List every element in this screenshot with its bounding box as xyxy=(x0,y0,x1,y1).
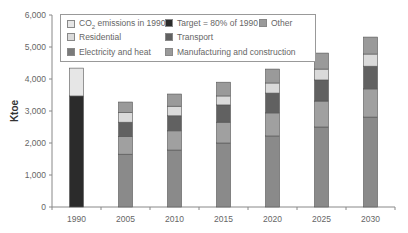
bar-segment xyxy=(119,137,133,155)
bar-segment xyxy=(266,113,280,136)
bar-segment xyxy=(266,136,280,207)
bar-segment xyxy=(168,106,182,116)
legend-label-electricity: Electricity and heat xyxy=(79,47,151,57)
bars xyxy=(70,37,378,207)
y-tick-label: 5,000 xyxy=(25,42,47,52)
bar-segment xyxy=(168,94,182,106)
legend-swatch-co2-1990 xyxy=(67,20,75,28)
y-axis-label: Ktoe xyxy=(9,99,20,122)
bar-segment xyxy=(217,82,231,96)
bar-segment xyxy=(168,150,182,207)
bar-segment xyxy=(217,105,231,122)
bar-segment xyxy=(119,154,133,207)
bar-segment xyxy=(315,53,329,69)
bar-segment xyxy=(217,143,231,207)
legend-label-target: Target = 80% of 1990 xyxy=(177,18,258,28)
legend-item-residential: Residential xyxy=(67,32,121,42)
legend-label-other: Other xyxy=(271,18,292,28)
x-tick-label: 2010 xyxy=(165,214,184,224)
legend-swatch-electricity xyxy=(67,48,75,56)
bar-segment xyxy=(364,117,378,207)
bar-segment xyxy=(364,54,378,66)
bar-segment xyxy=(315,69,329,80)
bar-2025 xyxy=(315,53,329,207)
legend-label-residential: Residential xyxy=(79,32,121,42)
bar-segment xyxy=(315,80,329,101)
legend: CO2 emissions in 1990 Target = 80% of 19… xyxy=(60,14,316,62)
y-tick-label: 6,000 xyxy=(25,10,47,20)
bar-segment xyxy=(364,37,378,54)
x-tick-label: 1990 xyxy=(67,214,86,224)
legend-item-electricity: Electricity and heat xyxy=(67,47,151,57)
legend-swatch-manufacturing xyxy=(165,48,173,56)
legend-item-target: Target = 80% of 1990 xyxy=(165,18,258,28)
x-tick-label: 2020 xyxy=(263,214,282,224)
y-tick-label: 2,000 xyxy=(25,138,47,148)
y-tick-label: 4,000 xyxy=(25,74,47,84)
bar-segment xyxy=(364,89,378,117)
bar-segment xyxy=(315,127,329,207)
legend-label-transport: Transport xyxy=(177,32,213,42)
bar-segment xyxy=(70,96,84,207)
legend-swatch-target xyxy=(165,19,173,27)
legend-label-co2-1990: CO2 emissions in 1990 xyxy=(79,18,166,30)
bar-2010 xyxy=(168,94,182,207)
x-tick-label: 2025 xyxy=(312,214,331,224)
legend-item-manufacturing: Manufacturing and construction xyxy=(165,47,296,57)
bar-2015 xyxy=(217,82,231,207)
bar-2030 xyxy=(364,37,378,207)
bar-segment xyxy=(70,68,84,96)
bar-segment xyxy=(168,116,182,131)
x-tick-label: 2015 xyxy=(214,214,233,224)
bar-segment xyxy=(266,69,280,83)
bar-segment xyxy=(266,93,280,113)
legend-label-manufacturing: Manufacturing and construction xyxy=(177,47,296,57)
legend-swatch-residential xyxy=(67,33,75,41)
bar-segment xyxy=(119,113,133,123)
legend-swatch-transport xyxy=(165,33,173,41)
x-axis: 1990200520102015202020252030 xyxy=(52,207,395,224)
bar-segment xyxy=(119,102,133,113)
bar-segment xyxy=(364,66,378,89)
bar-segment xyxy=(168,131,182,150)
bar-segment xyxy=(266,83,280,93)
bar-segment xyxy=(217,122,231,143)
y-axis: 01,0002,0003,0004,0005,0006,000 xyxy=(25,10,52,212)
bar-segment xyxy=(217,96,231,105)
bar-segment xyxy=(119,122,133,136)
legend-item-co2-1990: CO2 emissions in 1990 xyxy=(67,18,166,30)
y-tick-label: 1,000 xyxy=(25,170,47,180)
y-tick-label: 0 xyxy=(41,202,46,212)
legend-item-transport: Transport xyxy=(165,32,213,42)
bar-2005 xyxy=(119,102,133,207)
bar-2020 xyxy=(266,69,280,207)
bar-segment xyxy=(315,101,329,127)
y-tick-label: 3,000 xyxy=(25,106,47,116)
x-tick-label: 2030 xyxy=(361,214,380,224)
x-tick-label: 2005 xyxy=(116,214,135,224)
legend-swatch-other xyxy=(259,19,267,27)
legend-item-other: Other xyxy=(259,18,292,28)
bar-1990 xyxy=(70,68,84,207)
